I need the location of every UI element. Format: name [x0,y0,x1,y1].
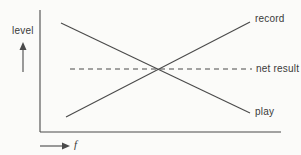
frequency-right-arrow-icon [40,143,70,150]
play-line-label: play [255,106,274,117]
record-line-label: record [255,13,285,24]
level-up-arrow-icon [20,42,27,72]
y-axis-label: level [12,25,34,36]
x-axis-label: f [74,139,77,150]
net-result-line-label: net result [256,63,299,74]
record-play-eq-diagram: level record net result play f [0,0,301,155]
